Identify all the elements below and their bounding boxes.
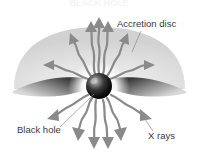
black-hole-diagram: BLACK HOLE [0,0,199,155]
cut-off-title: BLACK HOLE [70,0,129,8]
label-x-rays: X rays [148,130,175,141]
label-accretion-disc: Accretion disc [117,18,176,29]
label-black-hole: Black hole [17,124,61,135]
black-hole-sphere [86,73,112,99]
